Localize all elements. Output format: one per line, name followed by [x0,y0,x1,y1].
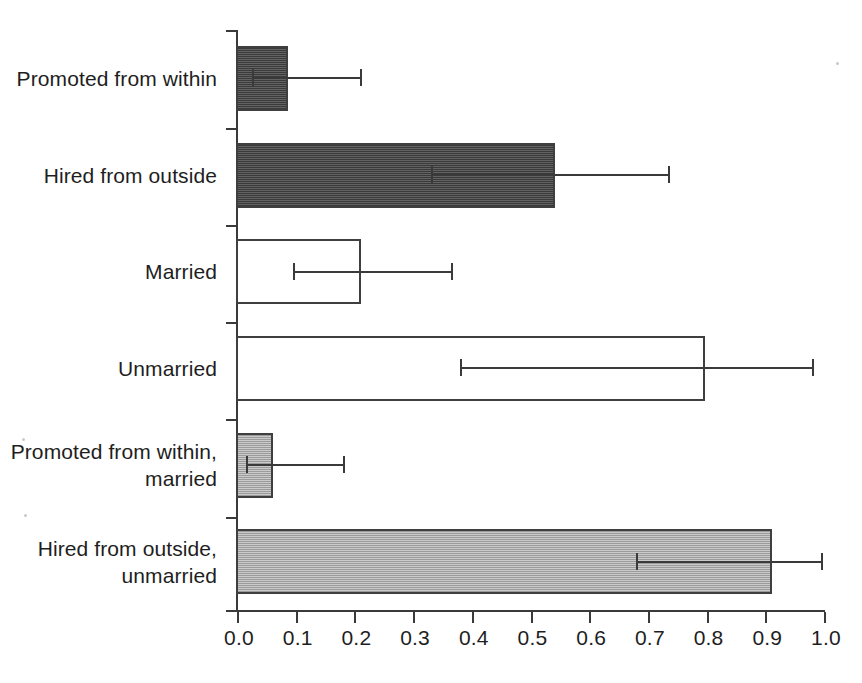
y-axis-tick [226,322,237,324]
x-axis-tick-label: 0.8 [683,626,735,650]
scan-artifact [836,62,839,65]
scan-artifact [22,438,25,441]
category-label-line: Unmarried [0,355,217,382]
x-axis-tick [648,612,650,623]
x-axis-tick-label: 0.1 [272,626,324,650]
error-bar-line [253,77,362,79]
error-bar-cap-high [451,263,453,280]
error-bar-cap-low [431,166,433,183]
x-axis-tick-label: 0.5 [507,626,559,650]
error-bar-cap-low [246,456,248,473]
error-bar-cap-high [821,553,823,570]
category-label: Married [0,258,217,285]
y-axis-tick [226,128,237,130]
error-bar-line [432,174,670,176]
category-label: Hired from outside [0,162,217,189]
y-axis-tick [226,610,237,612]
error-bar-cap-low [460,359,462,376]
category-label-line: Promoted from within [0,65,217,92]
category-label: Promoted from within,married [0,438,217,492]
category-label-line: Hired from outside, [0,535,217,562]
x-axis-tick-label: 0.0 [213,626,265,650]
y-axis-spine [236,30,238,612]
error-bar-line [461,367,813,369]
error-bar-cap-high [360,69,362,86]
category-label: Hired from outside,unmarried [0,535,217,589]
error-bar-cap-high [668,166,670,183]
y-axis-tick [226,30,237,32]
x-axis-tick [707,612,709,623]
category-label-line: unmarried [0,562,217,589]
y-axis-tick [226,517,237,519]
x-axis-tick-label: 0.3 [389,626,441,650]
scan-artifact [24,514,27,517]
x-axis-tick-label: 1.0 [800,626,852,650]
x-axis-tick-label: 0.4 [448,626,500,650]
x-axis-tick [296,612,298,623]
error-bar-line [294,271,452,273]
bar-chart-figure: 0.00.10.20.30.40.50.60.70.80.91.0 Promot… [0,0,862,683]
error-bar-line [637,561,822,563]
category-label-line: Married [0,258,217,285]
category-label: Promoted from within [0,65,217,92]
y-axis-tick [226,225,237,227]
category-label-line: married [0,465,217,492]
category-label-line: Promoted from within, [0,438,217,465]
x-axis-tick [824,612,826,623]
error-bar-cap-high [343,456,345,473]
x-axis-tick-label: 0.6 [565,626,617,650]
x-axis-tick [413,612,415,623]
x-axis-tick-label: 0.9 [741,626,793,650]
x-axis-tick [354,612,356,623]
x-axis-tick [531,612,533,623]
category-label-line: Hired from outside [0,162,217,189]
error-bar-cap-low [293,263,295,280]
error-bar-line [247,464,344,466]
category-label: Unmarried [0,355,217,382]
x-axis-tick [589,612,591,623]
error-bar-cap-low [252,69,254,86]
x-axis-tick [472,612,474,623]
x-axis-tick [237,612,239,623]
error-bar-cap-high [812,359,814,376]
x-axis-tick-label: 0.2 [330,626,382,650]
error-bar-cap-low [636,553,638,570]
x-axis-tick [765,612,767,623]
x-axis-tick-label: 0.7 [624,626,676,650]
y-axis-tick [226,419,237,421]
